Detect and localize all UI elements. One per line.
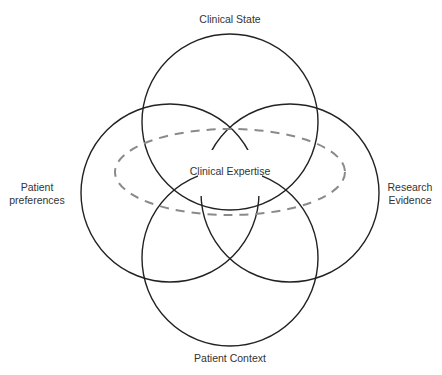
label-research-evidence: Research Evidence [378,181,442,207]
label-patient-preferences-line2: preferences [0,194,74,207]
label-patient-preferences-line1: Patient [0,181,74,194]
label-research-evidence-line2: Evidence [378,194,442,207]
label-clinical-state: Clinical State [180,13,280,26]
label-research-evidence-line1: Research [378,181,442,194]
label-patient-preferences: Patient preferences [0,181,74,207]
label-clinical-expertise: Clinical Expertise [170,165,290,178]
label-patient-context: Patient Context [170,352,290,365]
